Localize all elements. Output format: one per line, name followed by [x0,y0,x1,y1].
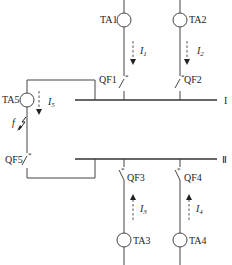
ta5-label: TA5 [2,94,20,105]
bus-2: Ⅱ [75,154,227,165]
svg-text:*: * [121,166,125,174]
svg-text:*: * [125,73,129,81]
qf3-label: QF3 [127,172,145,183]
bus-2-label: Ⅱ [222,154,227,165]
qf1-label: QF1 [99,74,117,85]
ct-ta3-icon [117,233,131,247]
feeder-1: * TA1 QF1 I1 [99,0,147,100]
qf4-label: QF4 [184,172,202,183]
diagram-svg: I Ⅱ * TA1 QF1 I1 * TA2 QF2 I2 * [0,0,232,265]
ct-ta4-icon [173,233,187,247]
ta2-label: TA2 [189,14,207,25]
fault-label: f [12,117,16,128]
svg-text:*: * [28,151,32,159]
feeder-4: * QF4 TA4 I4 [173,159,207,265]
svg-text:*: * [177,166,181,174]
ct-ta1-icon [117,13,131,27]
qf2-label: QF2 [184,74,202,85]
ct-ta2-icon [173,13,187,27]
ta3-label: TA3 [133,235,151,246]
feeder-2: * TA2 QF2 I2 [173,0,207,100]
current-i5-label: I5 [47,96,55,109]
ct-ta5-icon [20,93,34,107]
bus-coupler: * TA5 QF5 I5 f [2,80,95,178]
current-i2-label: I2 [196,45,204,58]
breaker-qf2-icon [175,79,180,88]
feeder-3: * QF3 TA3 I3 [117,159,151,265]
current-i3-label: I3 [139,203,147,216]
breaker-qf1-icon [119,79,124,88]
ta4-label: TA4 [189,235,207,246]
current-i1-label: I1 [139,45,147,58]
fault-lightning-icon [17,117,26,131]
bus-1: I [75,95,227,106]
current-i4-label: I4 [195,203,203,216]
ta1-label: TA1 [100,14,118,25]
bus-coupler-protection-diagram: I Ⅱ * TA1 QF1 I1 * TA2 QF2 I2 * [0,0,232,265]
qf5-label: QF5 [5,154,23,165]
bus-1-label: I [224,95,227,106]
